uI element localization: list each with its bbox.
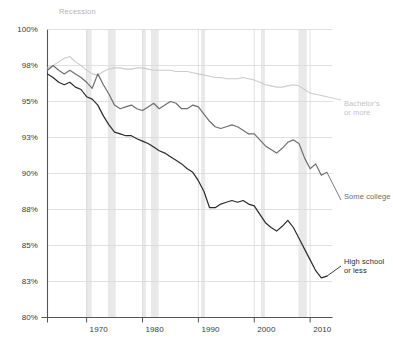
education-employment-line-chart: 100%98%95%93%90%88%85%83%80% 19701980199… <box>0 0 393 345</box>
series-label-high-school-line2: or less <box>344 266 384 275</box>
y-tick-label-100: 100% <box>4 25 38 34</box>
y-tick-label-98: 98% <box>4 61 38 70</box>
x-tick-label-1990: 1990 <box>201 325 219 334</box>
series-label-some-college-line1: Some college <box>344 192 391 201</box>
y-tick-label-83: 83% <box>4 277 38 286</box>
series-label-high-school: High school or less <box>344 257 384 275</box>
series-label-some-college: Some college <box>344 192 391 201</box>
series-leader-0 <box>327 97 341 100</box>
x-tick-marks <box>48 318 311 323</box>
series-label-high-school-line1: High school <box>344 257 384 266</box>
y-tick-label-88: 88% <box>4 205 38 214</box>
x-tick-label-1980: 1980 <box>146 325 164 334</box>
series-label-bachelors-line2: or more <box>344 108 380 117</box>
series-label-bachelors: Bachelor's or more <box>344 99 380 117</box>
series-leader-1 <box>327 172 341 200</box>
recession-annotation-label: Recession <box>59 7 96 16</box>
x-tick-label-2010: 2010 <box>313 325 331 334</box>
series-leader-2 <box>327 266 341 276</box>
x-tick-label-2000: 2000 <box>257 325 275 334</box>
y-tick-label-85: 85% <box>4 241 38 250</box>
y-tick-label-95: 95% <box>4 97 38 106</box>
x-tick-label-1970: 1970 <box>90 325 108 334</box>
y-tick-label-80: 80% <box>4 313 38 322</box>
y-tick-label-90: 90% <box>4 169 38 178</box>
y-tick-label-93: 93% <box>4 133 38 142</box>
series-label-bachelors-line1: Bachelor's <box>344 99 380 108</box>
chart-canvas <box>0 0 393 345</box>
